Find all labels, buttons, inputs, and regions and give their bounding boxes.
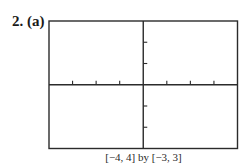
plot-area: [49, 21, 238, 149]
window-caption: [−4, 4] by [−3, 3]: [49, 151, 238, 163]
graph-window: [0, 0, 247, 167]
